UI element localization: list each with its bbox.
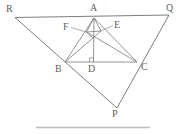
leader-line-E (101, 26, 113, 32)
segment-FA (87, 18, 95, 32)
label-R: R (6, 4, 13, 14)
geometry-figure: R Q A F E B D C P (0, 0, 184, 134)
segment-BE (65, 31, 101, 62)
segment-AD (94, 18, 95, 62)
label-B: B (55, 64, 62, 74)
label-E: E (114, 20, 120, 30)
leader-line-F (71, 28, 87, 33)
label-P: P (112, 109, 118, 119)
label-F: F (63, 22, 69, 32)
segment-FE (87, 31, 102, 32)
label-Q: Q (166, 3, 173, 13)
right-angle-marker-D (90, 58, 94, 62)
label-A: A (90, 3, 97, 13)
label-C: C (141, 62, 148, 72)
segment-RQ (15, 15, 169, 18)
segment-AB (65, 18, 94, 62)
label-D: D (88, 64, 95, 74)
